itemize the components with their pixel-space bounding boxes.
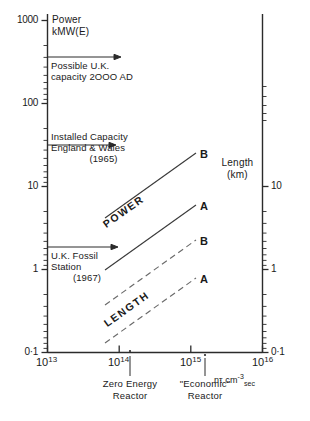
x-tick-label-3: 1016 [252,355,273,369]
reference-arrow-uk-capacity-2000ad [48,54,122,59]
reference-label-line-2: (1965) [51,153,156,164]
y-axis-left-title: Power kMW(E) [52,14,89,38]
reference-label-line-2: (1967) [51,272,123,283]
x-tick-exponent: 15 [192,355,201,364]
y-axis-left-title-line-0: Power [52,14,89,26]
x-axis-ticks [48,346,263,353]
series-endpoint-label-power-b: B [200,148,208,161]
reference-label-uk-capacity-2000ad: Possible U.K. capacity 2OOO AD [51,60,133,82]
x-annotation-line-1: Reactor [161,390,249,402]
x-tick-exponent: 13 [48,355,57,364]
x-tick-exponent: 14 [120,355,129,364]
y-tick-label-left-4: 0·1 [2,346,38,358]
y-tick-label-right-0: 10 [271,180,282,192]
series-endpoint-label-length-b: B [200,235,208,248]
y-tick-label-right-1: 1 [271,263,276,275]
reference-label-uk-fossil-station-1967: U.K. Fossil Station (1967) [51,250,123,284]
reference-label-line-0: Possible U.K. [51,60,133,71]
y-axis-right-title-line-1: (km) [215,169,260,181]
y-tick-label-left-2: 10 [2,180,38,192]
x-annotation-line-0: "Economic" [161,378,249,390]
series-endpoint-label-power-a: A [200,200,208,213]
reference-label-line-1: capacity 2OOO AD [51,71,133,82]
x-tick-label-0: 1013 [36,355,57,369]
x-tick-base: 10 [108,356,120,368]
x-tick-base: 10 [36,356,48,368]
x-tick-base: 10 [252,356,264,368]
y-axis-right-title: Length (km) [215,157,260,181]
x-tick-label-2: 1015 [180,355,201,369]
x-tick-base: 10 [180,356,192,368]
y-tick-label-left-0: 1000 [2,14,38,26]
y-tick-label-left-3: 1 [2,263,38,275]
y-axis-right-title-line-0: Length [215,157,260,169]
x-tick-label-1: 1014 [108,355,129,369]
y-axis-left-major-ticks [42,21,48,353]
reference-label-installed-capacity-1965: Installed Capacity England & Wales (1965… [51,131,156,165]
reference-label-line-1: England & Wales [51,142,156,153]
y-axis-left-title-line-1: kMW(E) [52,26,89,38]
x-annotation-economic-reactor: "Economic" Reactor [161,378,249,402]
reference-label-line-0: Installed Capacity [51,131,156,142]
y-tick-label-left-1: 100 [2,97,38,109]
series-endpoint-label-length-a: A [200,273,208,286]
reference-label-line-0: U.K. Fossil [51,250,123,261]
x-tick-exponent: 16 [264,355,273,364]
reference-label-line-1: Station [51,261,123,272]
reference-arrow-uk-fossil-station-1967 [48,244,119,249]
